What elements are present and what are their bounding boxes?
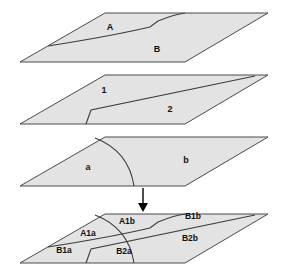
label-2: 2 [167, 104, 172, 114]
label-B: B [154, 44, 161, 54]
arrow-head [138, 203, 148, 212]
label-B1b: B1b [185, 211, 201, 221]
label-A: A [107, 22, 114, 32]
diagram-canvas: A B 1 2 a b [0, 0, 284, 277]
label-A1b: A1b [119, 216, 135, 226]
plane-1-2: 1 2 [20, 75, 268, 124]
label-A1a: A1a [80, 228, 96, 238]
stacked-planes-diagram: A B 1 2 a b [0, 0, 284, 277]
label-b: b [183, 155, 189, 165]
label-1: 1 [101, 85, 106, 95]
plane-a-b-surface [20, 13, 268, 62]
plane-a-b-lower: a b [20, 137, 268, 186]
downward-arrow [138, 188, 148, 212]
label-B1a: B1a [56, 245, 72, 255]
plane-overlay: A1a A1b B1a B1b B2a B2b [20, 211, 268, 263]
label-B2a: B2a [116, 246, 132, 256]
plane-a-b: A B [20, 13, 268, 62]
plane-a-b-lower-surface [20, 137, 268, 186]
label-B2b: B2b [182, 233, 198, 243]
